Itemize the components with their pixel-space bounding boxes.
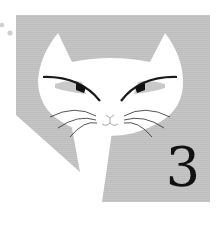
number-label: 3 [163, 138, 203, 198]
decorative-dots [0, 23, 13, 36]
